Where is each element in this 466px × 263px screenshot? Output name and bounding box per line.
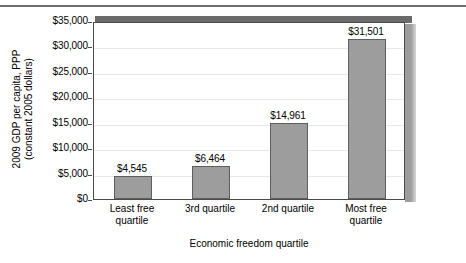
x-axis-tick-label-line: 3rd quartile [165, 203, 255, 215]
y-axis-tick-label: $5,000 [58, 168, 88, 179]
y-axis-tick-label: $15,000 [53, 117, 88, 128]
bar [348, 39, 386, 199]
x-axis-tick-label-line: quartile [87, 215, 177, 227]
y-axis-tick-mark [88, 73, 92, 74]
x-axis-tick-label: Most freequartile [321, 203, 411, 227]
bar [270, 123, 308, 199]
bar-value-label: $6,464 [170, 153, 250, 164]
y-axis-title-line-1: 2009 GDP per capita, PPP [11, 24, 23, 194]
y-axis-tick-mark [88, 149, 92, 150]
y-axis-tick-label: $20,000 [53, 91, 88, 102]
y-axis-tick-label: $35,000 [53, 15, 88, 26]
y-axis-tick-mark [88, 98, 92, 99]
chart-figure: $0$5,000$10,000$15,000$20,000$25,000$30,… [0, 0, 466, 263]
bar-value-label: $14,961 [248, 110, 328, 121]
x-axis-tick-label-line: quartile [321, 215, 411, 227]
bar [192, 166, 230, 199]
y-axis-title: 2009 GDP per capita, PPP (constant 2005 … [11, 24, 35, 194]
y-axis-tick-mark [88, 124, 92, 125]
x-axis-tick-label: Least freequartile [87, 203, 177, 227]
bar-value-label: $4,545 [92, 163, 172, 174]
x-axis-tick-label-line: Most free [321, 203, 411, 215]
x-axis-tick-label-line: 2nd quartile [243, 203, 333, 215]
y-axis-tick-mark [88, 47, 92, 48]
y-axis-tick-mark [88, 200, 92, 201]
y-axis-tick-mark [88, 22, 92, 23]
x-axis-tick-label: 2nd quartile [243, 203, 333, 215]
bar-value-label: $31,501 [326, 26, 406, 37]
y-axis-title-line-2: (constant 2005 dollars) [23, 24, 35, 194]
x-axis-title: Economic freedom quartile [93, 238, 405, 249]
x-axis-tick-label: 3rd quartile [165, 203, 255, 215]
x-axis-tick-label-line: Least free [87, 203, 177, 215]
bar [114, 176, 152, 199]
y-axis-tick-label: $25,000 [53, 66, 88, 77]
plot-3d-right-shadow [405, 24, 416, 202]
y-axis-tick-label: $10,000 [53, 142, 88, 153]
y-axis-tick-label: $30,000 [53, 40, 88, 51]
y-axis-tick-mark [88, 175, 92, 176]
